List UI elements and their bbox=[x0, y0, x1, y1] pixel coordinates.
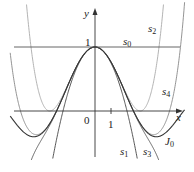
y-axis-arrow-icon bbox=[93, 8, 98, 15]
label-s2: s2 bbox=[148, 22, 156, 36]
origin-label: 0 bbox=[84, 114, 90, 126]
x-tick-label-1: 1 bbox=[108, 118, 114, 130]
bessel-diagram: y 1 x 0 1 s0 s2 s4 J0 s1 s3 bbox=[0, 0, 194, 172]
label-s3: s3 bbox=[143, 145, 151, 159]
curves-group bbox=[10, 2, 184, 160]
y-axis-label: y bbox=[83, 7, 89, 19]
curve-J0 bbox=[10, 47, 184, 137]
label-s0: s0 bbox=[123, 35, 131, 49]
x-axis-label: x bbox=[175, 111, 181, 123]
y-tick-label-1: 1 bbox=[85, 36, 91, 48]
curve-s4 bbox=[10, 2, 184, 134]
label-s1: s1 bbox=[120, 145, 128, 159]
label-s4: s4 bbox=[162, 85, 170, 99]
label-J0: J0 bbox=[165, 135, 174, 149]
